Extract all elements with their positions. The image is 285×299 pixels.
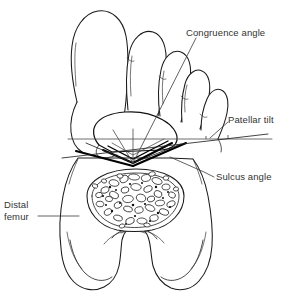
illustration-canvas [0, 0, 285, 299]
label-distal-femur: Distal femur [4, 199, 29, 222]
label-distal-femur-line1: Distal [4, 199, 29, 211]
label-congruence-angle: Congruence angle [186, 27, 265, 38]
label-sulcus-angle: Sulcus angle [216, 171, 272, 182]
label-distal-femur-line2: femur [4, 211, 29, 223]
forefoot-left-border [71, 102, 82, 152]
medical-illustration-figure: Congruence angle Patellar tilt Sulcus an… [0, 0, 285, 299]
cancellous-bone-group [87, 169, 184, 232]
toe-1-outline [71, 11, 128, 124]
label-patellar-tilt: Patellar tilt [228, 114, 274, 125]
forefoot-right-border [218, 139, 221, 152]
